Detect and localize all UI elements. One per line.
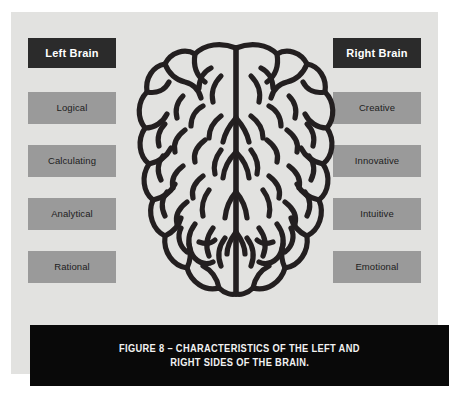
- left-trait-label: Analytical: [51, 209, 93, 219]
- left-brain-header: Left Brain: [28, 38, 116, 68]
- right-trait-innovative: Innovative: [333, 145, 421, 177]
- right-trait-creative: Creative: [333, 92, 421, 124]
- left-brain-header-label: Left Brain: [45, 48, 98, 59]
- left-trait-rational: Rational: [28, 251, 116, 283]
- right-trait-emotional: Emotional: [333, 251, 421, 283]
- right-trait-label: Emotional: [355, 262, 398, 272]
- right-brain-column: Right Brain Creative Innovative Intuitiv…: [333, 38, 421, 283]
- left-trait-analytical: Analytical: [28, 198, 116, 230]
- left-trait-label: Rational: [54, 262, 90, 272]
- figure-caption-line-1: FIGURE 8 – CHARACTERISTICS OF THE LEFT A…: [119, 342, 360, 356]
- figure-caption-line-2: RIGHT SIDES OF THE BRAIN.: [170, 356, 309, 370]
- left-trait-calculating: Calculating: [28, 145, 116, 177]
- right-trait-intuitive: Intuitive: [333, 198, 421, 230]
- left-trait-logical: Logical: [28, 92, 116, 124]
- right-trait-label: Intuitive: [360, 209, 394, 219]
- right-brain-header-label: Right Brain: [346, 48, 407, 59]
- right-trait-label: Creative: [359, 103, 395, 113]
- right-brain-header: Right Brain: [333, 38, 421, 68]
- figure-panel: Left Brain Logical Calculating Analytica…: [11, 12, 438, 374]
- figure-container: Left Brain Logical Calculating Analytica…: [0, 0, 449, 396]
- left-trait-label: Calculating: [48, 156, 96, 166]
- brain-icon: [133, 32, 339, 312]
- left-trait-label: Logical: [57, 103, 88, 113]
- right-trait-label: Innovative: [355, 156, 399, 166]
- figure-caption-bar: FIGURE 8 – CHARACTERISTICS OF THE LEFT A…: [30, 325, 449, 386]
- left-brain-column: Left Brain Logical Calculating Analytica…: [28, 38, 116, 283]
